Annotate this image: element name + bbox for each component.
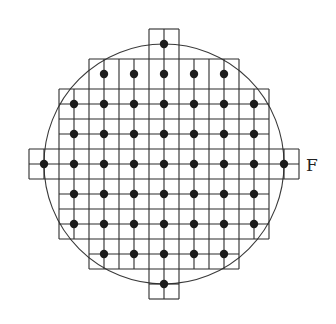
- measurement-dot: [130, 100, 138, 108]
- diagram-canvas: F: [0, 0, 336, 324]
- measurement-dot: [160, 250, 168, 258]
- measurement-dot: [160, 190, 168, 198]
- measurement-dot: [100, 70, 108, 78]
- measurement-dot: [220, 130, 228, 138]
- measurement-dot: [130, 70, 138, 78]
- measurement-dot: [70, 160, 78, 168]
- measurement-points: [40, 40, 288, 288]
- measurement-dot: [280, 160, 288, 168]
- sampling-grid-figure: F: [0, 0, 336, 324]
- measurement-dot: [70, 220, 78, 228]
- measurement-dot: [220, 190, 228, 198]
- measurement-dot: [190, 190, 198, 198]
- measurement-dot: [160, 130, 168, 138]
- measurement-dot: [160, 70, 168, 78]
- measurement-dot: [250, 100, 258, 108]
- measurement-dot: [220, 100, 228, 108]
- measurement-dot: [40, 160, 48, 168]
- measurement-dot: [100, 190, 108, 198]
- measurement-dot: [130, 160, 138, 168]
- figure-label-f: F: [306, 155, 318, 175]
- measurement-dot: [130, 130, 138, 138]
- measurement-dot: [70, 190, 78, 198]
- measurement-dot: [190, 220, 198, 228]
- measurement-dot: [220, 70, 228, 78]
- measurement-dot: [100, 220, 108, 228]
- measurement-dot: [190, 160, 198, 168]
- measurement-dot: [70, 100, 78, 108]
- measurement-dot: [220, 250, 228, 258]
- measurement-dot: [220, 160, 228, 168]
- measurement-dot: [160, 100, 168, 108]
- measurement-dot: [100, 250, 108, 258]
- measurement-dot: [100, 160, 108, 168]
- measurement-dot: [160, 280, 168, 288]
- measurement-dot: [160, 160, 168, 168]
- measurement-dot: [250, 130, 258, 138]
- measurement-dot: [190, 250, 198, 258]
- measurement-dot: [190, 100, 198, 108]
- measurement-dot: [160, 40, 168, 48]
- measurement-dot: [250, 220, 258, 228]
- measurement-dot: [250, 190, 258, 198]
- measurement-dot: [250, 160, 258, 168]
- measurement-dot: [130, 220, 138, 228]
- measurement-dot: [130, 190, 138, 198]
- measurement-dot: [160, 220, 168, 228]
- measurement-dot: [70, 130, 78, 138]
- measurement-dot: [100, 100, 108, 108]
- measurement-dot: [190, 70, 198, 78]
- measurement-dot: [130, 250, 138, 258]
- measurement-dot: [100, 130, 108, 138]
- measurement-dot: [220, 220, 228, 228]
- measurement-dot: [190, 130, 198, 138]
